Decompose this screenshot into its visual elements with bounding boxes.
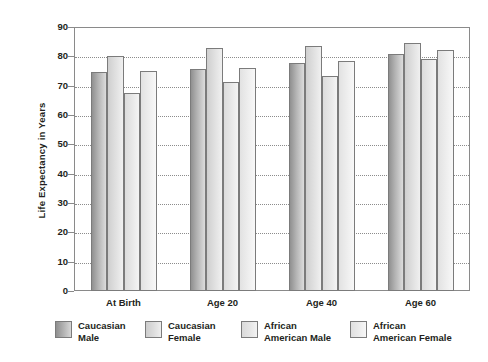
bar: [124, 93, 141, 291]
bar: [289, 63, 306, 291]
y-axis-tick-label: 90: [40, 22, 68, 32]
y-axis-tick-label: 60: [40, 110, 68, 120]
y-axis-tick-mark: [68, 86, 74, 87]
bar: [91, 72, 108, 291]
y-axis-tick-label: 80: [40, 51, 68, 61]
bar: [404, 43, 421, 291]
y-axis-tick-mark: [68, 291, 74, 292]
legend-swatch-icon: [350, 321, 367, 338]
y-axis-tick-mark: [68, 262, 74, 263]
bar: [437, 50, 454, 291]
y-axis-tick-label: 40: [40, 169, 68, 179]
y-axis-tick-mark: [68, 174, 74, 175]
y-axis-tick-label: 30: [40, 198, 68, 208]
y-axis-tick-label: 50: [40, 139, 68, 149]
y-axis-tick-mark: [68, 144, 74, 145]
bar: [388, 54, 405, 291]
y-axis-tick-label: 0: [40, 286, 68, 296]
bar: [239, 68, 256, 291]
bar: [190, 69, 207, 291]
y-axis-tick-mark: [68, 115, 74, 116]
y-axis-tick-mark: [68, 232, 74, 233]
x-axis-tick-label: Age 60: [371, 297, 470, 308]
legend-label: African American Male: [264, 320, 331, 344]
bar: [305, 46, 322, 291]
legend-item[interactable]: Caucasian Male: [55, 320, 126, 344]
bar: [322, 76, 339, 291]
bar: [107, 56, 124, 291]
y-axis-tick-label: 70: [40, 81, 68, 91]
x-axis-tick-label: At Birth: [74, 297, 173, 308]
legend-item[interactable]: African American Female: [350, 320, 452, 344]
bar: [140, 71, 157, 291]
y-axis-tick-mark: [68, 27, 74, 28]
legend-swatch-icon: [145, 321, 162, 338]
y-axis-tick-mark: [68, 203, 74, 204]
bars-layer: [74, 27, 470, 291]
bar: [421, 59, 438, 291]
y-axis-tick-labels: 0102030405060708090: [38, 0, 68, 362]
legend-label: Caucasian Male: [78, 320, 126, 344]
legend-label: African American Female: [373, 320, 452, 344]
y-axis-tick-label: 20: [40, 227, 68, 237]
y-axis-tick-label: 10: [40, 257, 68, 267]
legend-swatch-icon: [241, 321, 258, 338]
legend-item[interactable]: Caucasian Female: [145, 320, 216, 344]
legend-label: Caucasian Female: [168, 320, 216, 344]
bar: [223, 82, 240, 291]
x-axis-tick-label: Age 40: [272, 297, 371, 308]
bar: [338, 61, 355, 291]
y-axis-tick-mark: [68, 56, 74, 57]
bar-chart: Life Expectancy in Years 010203040506070…: [0, 0, 488, 362]
x-axis-tick-label: Age 20: [173, 297, 272, 308]
legend-item[interactable]: African American Male: [241, 320, 331, 344]
legend: Caucasian MaleCaucasian FemaleAfrican Am…: [55, 320, 475, 358]
bar: [206, 48, 223, 291]
legend-swatch-icon: [55, 321, 72, 338]
